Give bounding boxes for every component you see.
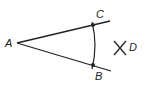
label-c: C (96, 8, 104, 20)
label-b: B (95, 70, 102, 82)
point-c-dot (91, 23, 95, 27)
arc-cb (92, 22, 95, 69)
ray-ab (17, 43, 111, 71)
label-a: A (4, 37, 12, 49)
point-b-dot (91, 63, 95, 67)
label-d: D (129, 41, 137, 53)
angle-bisector-construction: A C B D (0, 0, 147, 88)
ray-ac (17, 21, 110, 43)
